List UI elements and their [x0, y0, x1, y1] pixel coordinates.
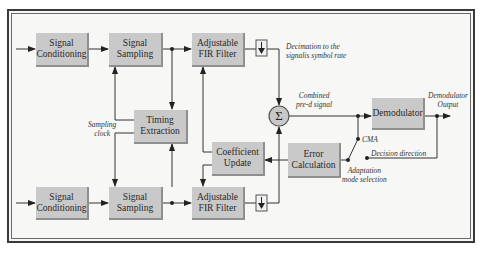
- signal-sampling-top-block: Signal Sampling: [109, 33, 163, 67]
- sampling-clock-label: Sampling clock: [88, 120, 116, 138]
- signal-conditioning-bottom-block: Signal Conditioning: [36, 187, 89, 220]
- timing-extraction-block: Timing Extraction: [134, 110, 188, 144]
- decimation-label: Decimation to the signalis symbol rate: [286, 42, 346, 60]
- demodulator-block: Demodulator: [372, 98, 425, 130]
- decimator-bottom: [256, 195, 267, 211]
- fir-filter-bottom-block: Adjustable FIR Filter: [192, 187, 245, 220]
- demodulator-output-label: Demodulator Output: [428, 91, 468, 109]
- decimator-top: [256, 40, 267, 56]
- combined-signal-label: Combined pre-d signal: [296, 91, 332, 109]
- adaptation-mode-label: Adaptation mode selection: [342, 166, 387, 184]
- cma-label: CMA: [362, 135, 378, 144]
- signal-sampling-bottom-block: Signal Sampling: [109, 187, 163, 220]
- error-calculation-block: Error Calculation: [288, 143, 341, 178]
- signal-conditioning-top-block: Signal Conditioning: [36, 33, 89, 67]
- decision-direction-label: Decision direction: [371, 149, 426, 158]
- coefficient-update-block: Coefficient Update: [212, 142, 265, 176]
- fir-filter-top-block: Adjustable FIR Filter: [192, 33, 245, 67]
- summer-symbol: Σ: [269, 107, 289, 125]
